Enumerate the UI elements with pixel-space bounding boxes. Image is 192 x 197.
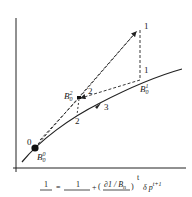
- formula-equals: =: [56, 183, 61, 192]
- formula-lhs-numerator: 1: [44, 180, 48, 189]
- diagram-canvas: 0 B00 B20 2 2 3 1 1 B10 1 = 1 + ( ∂1 / B…: [0, 0, 192, 197]
- label-step-2-down: 2: [75, 116, 80, 126]
- dashed-vertical-2: [77, 99, 79, 115]
- formula-paren-numerator: ∂1 / Bn: [104, 180, 126, 190]
- formula-plus: +: [92, 183, 97, 192]
- label-step-3: 3: [104, 102, 109, 112]
- point-b0-2: [77, 96, 81, 99]
- point-b0-0: [31, 144, 38, 151]
- formula-rhs-numerator: 1: [76, 180, 80, 189]
- formula-tail: δ pt+1: [143, 181, 161, 192]
- label-step-1-right: 1: [144, 65, 149, 75]
- formula: 1 = 1 + ( ∂1 / Bn ) t δ pt+1: [40, 173, 161, 192]
- label-step-1-top: 1: [144, 21, 149, 31]
- formula-exponent: t: [137, 173, 140, 182]
- formula-paren-left: (: [98, 182, 101, 191]
- label-start-0: 0: [27, 137, 32, 147]
- response-curve: [22, 69, 182, 162]
- label-step-2-secant: 2: [88, 86, 93, 96]
- label-b0-0: B00: [37, 151, 46, 163]
- label-b0-2: B20: [64, 90, 73, 102]
- dashed-tangent-1: [38, 32, 136, 144]
- label-b0-1: B10: [140, 83, 149, 95]
- formula-paren-right: ): [131, 182, 134, 191]
